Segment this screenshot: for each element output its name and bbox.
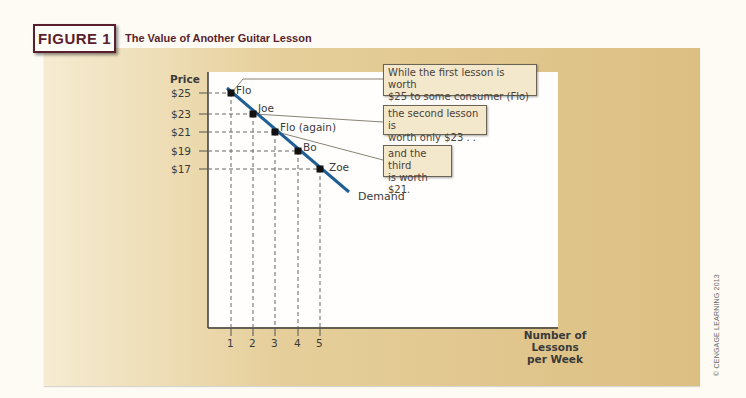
y-axis-title: Price [170, 73, 200, 85]
x-axis-title-line: Lessons [517, 341, 593, 353]
x-axis-title-line: Number of [517, 329, 593, 341]
callout-text: While the first lesson is worth [388, 67, 532, 91]
x-tick-label: 3 [271, 337, 278, 349]
callout-third-lesson: and the third is worth $21. [383, 145, 452, 177]
point-joe [250, 111, 257, 118]
point-label: Zoe [329, 161, 349, 173]
figure-title: The Value of Another Guitar Lesson [125, 32, 312, 44]
point-label: Bo [303, 141, 317, 153]
point-label: Joe [258, 102, 274, 114]
callout-text: and the third [388, 148, 447, 172]
x-tick-label: 4 [294, 337, 301, 349]
point-flo [228, 90, 235, 97]
y-tick-label: $17 [171, 163, 191, 175]
callout-text: is worth $21. [388, 172, 447, 196]
copyright-notice: © CENGAGE LEARNING 2013 [713, 274, 720, 376]
callout-first-lesson: While the first lesson is worth $25 to s… [383, 64, 537, 96]
callout-text: the second lesson is [388, 108, 482, 132]
point-flo-again [272, 129, 279, 136]
x-axis-title: Number of Lessons per Week [517, 329, 593, 365]
point-label: Flo [236, 84, 251, 96]
y-tick-label: $21 [171, 126, 191, 138]
x-tick-label: 1 [227, 337, 234, 349]
figure-label: FIGURE 1 [33, 24, 116, 53]
demand-line [227, 88, 349, 192]
x-tick-label: 2 [249, 337, 256, 349]
point-label: Flo (again) [280, 121, 336, 133]
x-tick-label: 5 [316, 337, 323, 349]
x-axis-title-line: per Week [517, 353, 593, 365]
y-tick-label: $23 [171, 108, 191, 120]
point-zoe [317, 166, 324, 173]
point-bo [295, 148, 302, 155]
y-tick-label: $19 [171, 145, 191, 157]
y-tick-label: $25 [171, 87, 191, 99]
callout-second-lesson: the second lesson is worth only $23 . . … [383, 105, 487, 135]
